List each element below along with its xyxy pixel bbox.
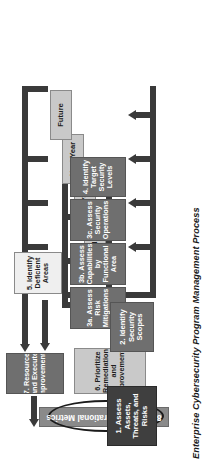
edge-t1-up: [22, 244, 48, 250]
node-n3b-label: 3b. Assess Capabilities by Functional Ar…: [77, 243, 120, 285]
node-t4-label: Future: [56, 102, 67, 128]
edge-t1-arrowhead: [128, 243, 136, 253]
edge-bus-t4: [136, 112, 154, 118]
edge-n7-n8-line: [31, 396, 37, 421]
edge-t3-up: [22, 156, 48, 162]
diagram-canvas: Enterprise Cybersecurity Program Managem…: [0, 0, 206, 468]
diagram-title: Enterprise Cybersecurity Program Managem…: [191, 207, 201, 459]
node-n3c-label: 3c. Assess Security Operations: [85, 200, 112, 241]
edge-assess-bus: [62, 177, 68, 308]
edge-bus-t2: [136, 200, 154, 206]
node-n3a-label: 3a. Assess Risk Mitigations: [85, 288, 112, 329]
edge-t4-arrowhead: [128, 111, 136, 121]
node-n1-label: 1. Assess Assets, Threats, and Risks: [114, 387, 150, 445]
diagram-frame: Enterprise Cybersecurity Program Managem…: [0, 0, 206, 468]
node-n4[interactable]: 4. Identify Target Security Levels: [70, 157, 126, 197]
edge-t2-arrowhead: [128, 199, 136, 209]
node-n3c[interactable]: 3c. Assess Security Operations: [70, 199, 126, 241]
edge-bus-t1: [136, 244, 154, 250]
edge-n7-n8-arrowhead: [29, 419, 39, 427]
edge-to-n7-arrowhead: [20, 344, 30, 352]
node-n2[interactable]: 2. Identify Security Scopes: [110, 302, 154, 352]
node-n4-label: 4. Identify Target Security Levels: [81, 158, 116, 196]
edge-n5-n6-arrowhead: [40, 343, 50, 351]
node-n1[interactable]: 1. Assess Assets, Threats, and Risks: [107, 386, 157, 446]
node-n5[interactable]: 5. Identify Deficient Areas: [14, 252, 62, 294]
node-n7[interactable]: 7. Resource and Execute Improvements: [6, 353, 64, 394]
edge-bus-t3: [136, 156, 154, 162]
node-n3b[interactable]: 3b. Assess Capabilities by Functional Ar…: [70, 243, 126, 285]
edge-t2-up: [22, 200, 48, 206]
node-n2-label: 2. Identify Security Scopes: [118, 303, 146, 351]
node-t4[interactable]: Future: [50, 90, 72, 140]
edge-n5-n6-line: [42, 300, 48, 344]
edge-t3-arrowhead: [128, 155, 136, 165]
node-n7-label: 7. Resource and Execute Improvements: [22, 353, 49, 394]
node-n5-label: 5. Identify Deficient Areas: [25, 255, 52, 291]
edge-timeline-top-bus: [22, 86, 28, 344]
edge-t4-right: [22, 86, 28, 118]
